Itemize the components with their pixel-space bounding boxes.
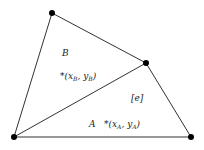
vertex-bottom-right xyxy=(188,134,194,140)
centroid-a-label: *(xA, yA) xyxy=(104,119,141,130)
vertex-top xyxy=(49,10,55,16)
edges xyxy=(14,13,191,137)
vertices xyxy=(11,10,194,140)
centroid-b-label: *(xB, yB) xyxy=(60,71,97,82)
cell-a-label: A xyxy=(88,119,96,129)
vertex-bottom-left xyxy=(11,134,17,140)
edge-e-label: [e] xyxy=(131,93,144,103)
cell-b-label: B xyxy=(61,48,69,58)
vertex-right-mid xyxy=(143,60,149,66)
mesh-diagram: B *(xB, yB) [e] A *(xA, yA) xyxy=(0,0,204,150)
edge-right xyxy=(146,63,191,137)
